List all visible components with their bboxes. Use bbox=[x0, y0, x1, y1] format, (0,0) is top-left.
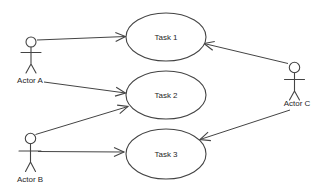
uml-use-case-diagram: Task 1 Task 2 Task 3 Actor A Actor B Act… bbox=[0, 0, 321, 193]
use-case-label: Task 1 bbox=[154, 33, 178, 42]
actor-body bbox=[285, 73, 305, 100]
actor-head bbox=[289, 62, 299, 72]
use-case-label: Task 2 bbox=[154, 91, 178, 100]
actor-b: Actor B bbox=[17, 133, 43, 184]
use-case-task-2: Task 2 bbox=[126, 71, 206, 119]
use-case-task-1: Task 1 bbox=[126, 13, 206, 61]
actor-label: Actor B bbox=[17, 175, 43, 184]
actor-label: Actor A bbox=[17, 76, 43, 85]
actor-head bbox=[25, 133, 35, 143]
use-case-task-3: Task 3 bbox=[126, 129, 206, 179]
actor-body bbox=[19, 144, 41, 172]
association-actor-b-task-3 bbox=[38, 152, 124, 153]
actor-c: Actor C bbox=[284, 62, 311, 108]
actor-body bbox=[21, 47, 41, 73]
actor-a: Actor A bbox=[17, 37, 43, 85]
actor-label: Actor C bbox=[284, 99, 311, 108]
association-actor-a-task-2 bbox=[44, 82, 126, 93]
actor-head bbox=[26, 37, 36, 47]
association-actor-a-task-1 bbox=[37, 37, 126, 41]
diagram-canvas: Task 1 Task 2 Task 3 Actor A Actor B Act… bbox=[0, 0, 321, 193]
association-actor-b-task-2 bbox=[36, 107, 129, 135]
association-actor-c-task-3 bbox=[200, 110, 290, 140]
use-case-label: Task 3 bbox=[154, 150, 178, 159]
association-actor-c-task-1 bbox=[204, 44, 288, 64]
